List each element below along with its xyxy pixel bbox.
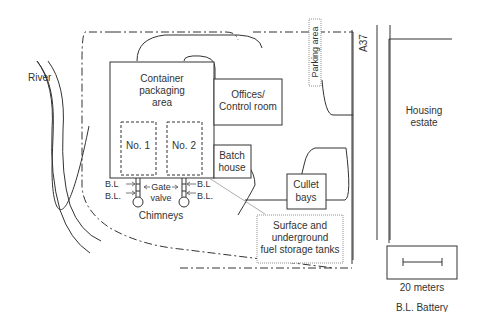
bl-right-1: B.L	[197, 179, 211, 189]
batch-label-2: house	[218, 162, 246, 173]
scale-bar: 20 meters	[387, 246, 457, 293]
furnace-1-label: No. 1	[126, 140, 150, 151]
cullet-bays: Cullet bays	[287, 174, 326, 209]
river: River	[0, 0, 101, 253]
fuel-label-1: Surface and	[273, 220, 327, 231]
cullet-label-2: bays	[295, 192, 316, 203]
gate-valve-label-2: valve	[150, 193, 171, 203]
parking-area: Parking area	[309, 19, 321, 86]
site-plan-diagram: River A37 Housing estate Parking area Co…	[0, 0, 480, 312]
container-packaging-area: Container packaging area No. 1 No. 2	[110, 62, 214, 178]
river-label: River	[28, 72, 52, 83]
offices-control-room: Offices/ Control room	[214, 79, 282, 125]
batch-house: Batch house	[214, 145, 251, 178]
cullet-label-1: Cullet	[293, 179, 319, 190]
offices-label-2: Control room	[219, 101, 277, 112]
fuel-label-2: underground	[272, 232, 329, 243]
bl-left-1: B.L	[105, 179, 119, 189]
scale-label: 20 meters	[400, 282, 444, 293]
chimneys-label: Chimneys	[139, 210, 183, 221]
housing-label-2: estate	[410, 117, 438, 128]
bl-right-2: B.L.	[197, 191, 213, 201]
batch-label-1: Batch	[219, 150, 245, 161]
road-label: A37	[358, 34, 369, 52]
container-label-3: area	[152, 97, 172, 108]
gate-valve-label-1: Gate	[151, 182, 171, 192]
offices-label-1: Offices/	[231, 89, 265, 100]
container-label-1: Container	[140, 73, 184, 84]
container-label-2: packaging	[139, 85, 185, 96]
housing-label-1: Housing	[406, 105, 443, 116]
chimneys: B.L B.L. B.L B.L. Gate valve Chimneys	[105, 178, 213, 221]
bl-left-2: B.L.	[105, 191, 121, 201]
furnace-2-label: No. 2	[172, 140, 196, 151]
parking-label: Parking area	[310, 26, 320, 77]
housing-estate: Housing estate	[389, 39, 452, 243]
fuel-label-3: fuel storage tanks	[261, 244, 340, 255]
legend-bl-battery: B.L. Battery	[396, 302, 448, 312]
